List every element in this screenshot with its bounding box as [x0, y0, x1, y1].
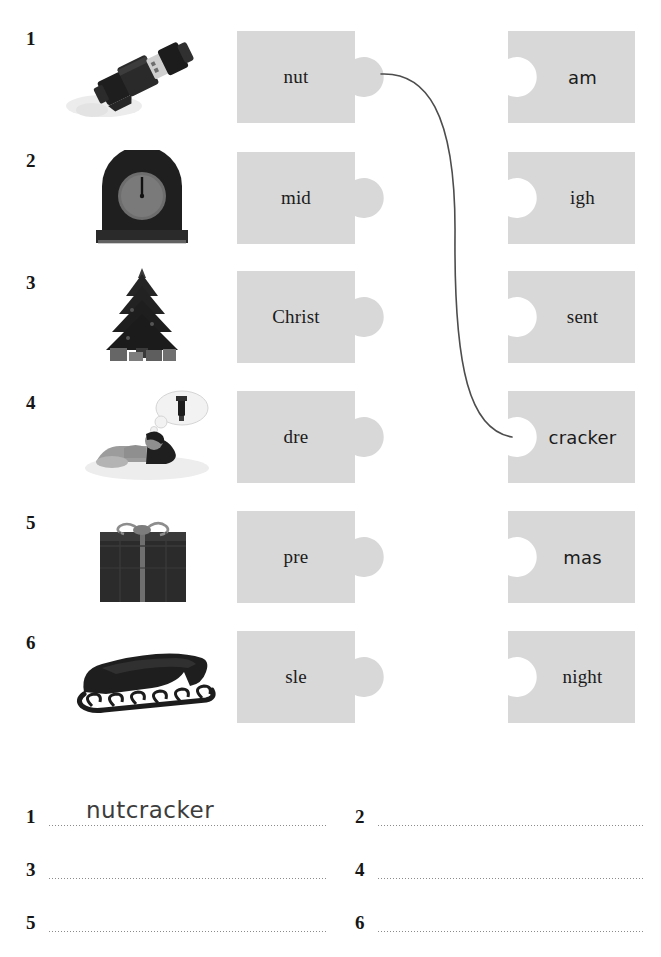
clock-midnight-image	[62, 150, 222, 246]
connector-line-nut-cracker[interactable]	[381, 74, 512, 437]
answer-line-6[interactable]	[377, 906, 645, 932]
right-piece-label-4: cracker	[530, 391, 635, 483]
answer-line-1[interactable]: nutcracker	[48, 800, 326, 826]
right-piece-label-5: mas	[530, 511, 635, 603]
picture-cell-2	[62, 150, 222, 246]
answer-text-1: nutcracker	[86, 797, 214, 823]
answer-line-3[interactable]	[48, 853, 326, 879]
answer-row-1[interactable]: 1 nutcracker	[26, 800, 326, 826]
left-piece-5[interactable]: pre	[237, 511, 387, 603]
picture-cell-5	[62, 506, 222, 610]
left-piece-3[interactable]: Christ	[237, 271, 387, 363]
wrapped-present-image	[62, 506, 222, 610]
right-piece-label-1: am	[530, 31, 635, 123]
answer-dotted-rule-1	[48, 824, 326, 826]
answer-row-3[interactable]: 3	[26, 853, 326, 879]
answer-row-6[interactable]: 6	[355, 906, 645, 932]
answer-dotted-rule-3	[48, 877, 326, 879]
christmas-tree-image	[62, 266, 222, 366]
right-piece-label-3: sent	[530, 271, 635, 363]
right-piece-2[interactable]: igh	[508, 152, 635, 244]
left-piece-label-2: mid	[237, 152, 355, 244]
answer-dotted-rule-4	[377, 877, 645, 879]
answer-number-4: 4	[355, 860, 377, 879]
answer-number-5: 5	[26, 913, 48, 932]
girl-dreaming-image	[62, 388, 232, 482]
answer-number-3: 3	[26, 860, 48, 879]
answer-line-5[interactable]	[48, 906, 326, 932]
right-piece-1[interactable]: am	[508, 31, 635, 123]
row-number-5: 5	[26, 512, 50, 534]
right-piece-4[interactable]: cracker	[508, 391, 635, 483]
row-number-3: 3	[26, 272, 50, 294]
left-piece-label-3: Christ	[237, 271, 355, 363]
left-piece-label-4: dre	[237, 391, 355, 483]
row-number-6: 6	[26, 632, 50, 654]
row-number-1: 1	[26, 28, 50, 50]
answer-dotted-rule-5	[48, 930, 326, 932]
picture-cell-3	[62, 266, 222, 366]
picture-cell-1	[62, 30, 222, 120]
answer-dotted-rule-2	[377, 824, 645, 826]
row-number-4: 4	[26, 392, 50, 414]
right-piece-5[interactable]: mas	[508, 511, 635, 603]
left-piece-1[interactable]: nut	[237, 31, 387, 123]
right-piece-6[interactable]: night	[508, 631, 635, 723]
answer-line-2[interactable]	[377, 800, 645, 826]
picture-cell-4	[62, 388, 232, 482]
left-piece-label-5: pre	[237, 511, 355, 603]
left-piece-6[interactable]: sle	[237, 631, 387, 723]
puzzle-worksheet: 1 2 3 4 5 6	[0, 0, 661, 957]
answer-row-2[interactable]: 2	[355, 800, 645, 826]
left-piece-2[interactable]: mid	[237, 152, 387, 244]
answer-number-6: 6	[355, 913, 377, 932]
right-piece-3[interactable]: sent	[508, 271, 635, 363]
answer-number-2: 2	[355, 807, 377, 826]
nutcracker-soldier-image	[62, 30, 222, 120]
answer-number-1: 1	[26, 807, 48, 826]
answer-row-5[interactable]: 5	[26, 906, 326, 932]
left-piece-label-6: sle	[237, 631, 355, 723]
right-piece-label-2: igh	[530, 152, 635, 244]
answer-line-4[interactable]	[377, 853, 645, 879]
picture-cell-6	[56, 628, 236, 732]
left-piece-4[interactable]: dre	[237, 391, 387, 483]
left-piece-label-1: nut	[237, 31, 355, 123]
right-piece-label-6: night	[530, 631, 635, 723]
row-number-2: 2	[26, 150, 50, 172]
answer-dotted-rule-6	[377, 930, 645, 932]
answer-row-4[interactable]: 4	[355, 853, 645, 879]
sleigh-image	[56, 628, 236, 732]
